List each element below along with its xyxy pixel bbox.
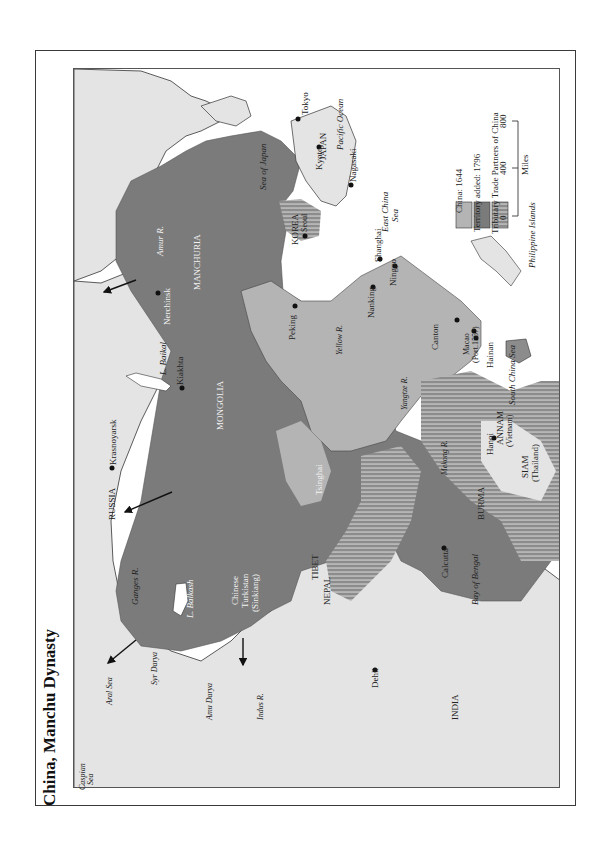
arrow-icon [108, 640, 136, 663]
arrow-icon [104, 280, 136, 292]
arrow-icon [125, 492, 172, 512]
expansion-arrows [0, 0, 612, 846]
